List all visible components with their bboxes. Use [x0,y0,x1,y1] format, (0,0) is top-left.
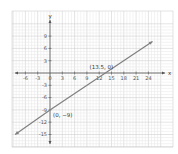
svg-text:18: 18 [121,75,127,81]
chart: -6-303691215182124963-3-6-9-12-15 (13.5,… [0,0,178,154]
svg-text:3: 3 [61,75,64,81]
svg-text:-3: -3 [35,75,40,81]
svg-text:-6: -6 [23,75,28,81]
svg-text:6: 6 [44,45,47,51]
svg-text:15: 15 [108,75,114,81]
svg-text:-15: -15 [39,131,47,137]
svg-text:0: 0 [48,75,51,81]
svg-text:-3: -3 [42,82,47,88]
svg-text:3: 3 [44,58,47,64]
svg-text:-6: -6 [42,94,47,100]
svg-text:21: 21 [133,75,139,81]
svg-text:(13.5, 0): (13.5, 0) [90,64,114,70]
svg-text:-9: -9 [42,107,47,113]
svg-text:(0, −9): (0, −9) [53,112,72,118]
svg-text:9: 9 [44,33,47,39]
svg-text:24: 24 [145,75,151,81]
svg-text:9: 9 [85,75,88,81]
svg-text:-12: -12 [39,119,47,125]
svg-text:6: 6 [73,75,76,81]
